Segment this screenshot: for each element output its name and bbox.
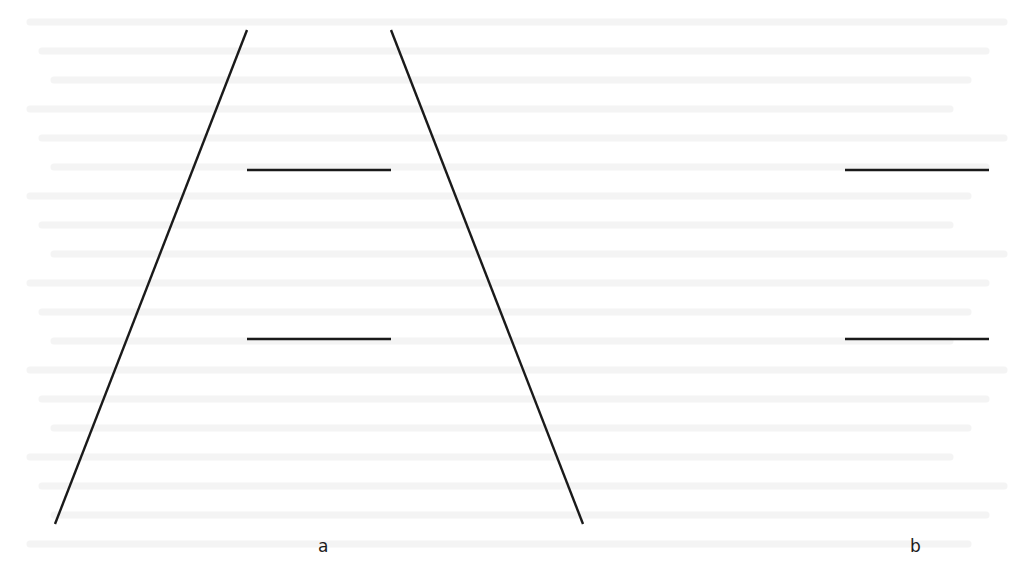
panel-a <box>55 30 583 524</box>
ponzo-illusion-figure <box>0 0 1034 587</box>
panel-label-a: a <box>318 538 328 555</box>
converging-line <box>55 30 247 524</box>
converging-line <box>391 30 583 524</box>
panel-label-b: b <box>910 538 921 555</box>
bleed-through-text-background <box>30 22 1004 544</box>
